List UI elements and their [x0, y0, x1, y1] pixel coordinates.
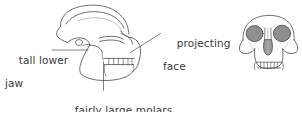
label-tall-lower-jaw-line2: jaw [5, 78, 68, 90]
frontal-left-zygomatic [241, 49, 254, 54]
skull-anatomy-figure: tall lower jaw projecting face fairly la… [0, 0, 302, 112]
temporal-line [78, 18, 122, 32]
label-fairly-large-molars: fairly large molars [61, 93, 172, 112]
label-tall-lower-jaw-line1: tall lower [19, 54, 68, 66]
label-projecting-face-line2: face [163, 61, 230, 73]
frontal-left-temporal [239, 40, 243, 53]
label-projecting-face-line1: projecting [177, 37, 231, 49]
occipital-outline [57, 27, 68, 43]
left-canine [254, 62, 255, 69]
label-tall-lower-jaw: tall lower jaw [5, 43, 68, 112]
leader-line-projecting-face [131, 34, 161, 53]
label-projecting-face: projecting face [163, 26, 230, 95]
frontal-skull-group [239, 15, 297, 69]
mandible-anterior [104, 65, 106, 76]
label-fairly-large-molars-line1: fairly large molars [75, 104, 172, 113]
lateral-skull-group [57, 5, 141, 80]
vault-inner-line [66, 12, 124, 29]
zygomatic-arch-lower [100, 40, 125, 44]
frontal-right-zygomatic [283, 49, 296, 54]
zygomatic-arch [99, 36, 123, 39]
cranium-outline [60, 5, 128, 34]
right-canine [282, 62, 283, 69]
face-front-outline [131, 38, 141, 59]
auditory-meatus [75, 40, 82, 46]
right-orbit [273, 25, 290, 41]
maxilla-outline [90, 45, 103, 52]
mandible-body [81, 71, 133, 80]
left-orbit [246, 26, 263, 42]
mandible-alveolar-line [102, 52, 103, 60]
ear-region [68, 38, 90, 45]
mandible-ramus [80, 45, 90, 74]
frontal-right-temporal [294, 40, 298, 53]
mandible-symphysis-line [133, 65, 134, 72]
